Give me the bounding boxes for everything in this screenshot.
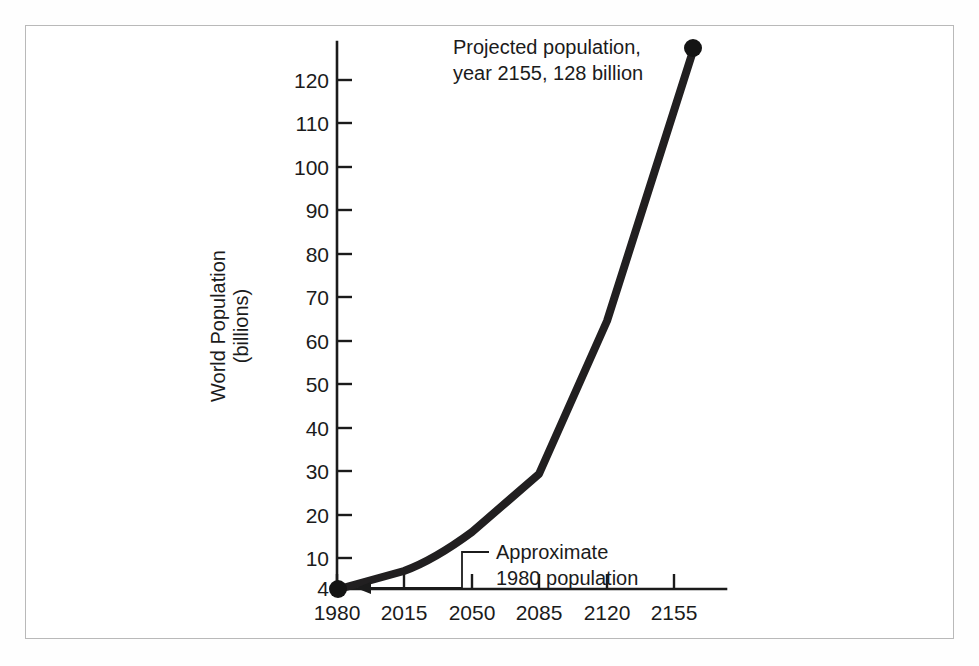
y-tick-label-10: 10 xyxy=(306,547,329,570)
y-tick-label-100: 100 xyxy=(294,156,329,179)
y-tick-label-4: 4 xyxy=(317,577,329,600)
data-series-world-population xyxy=(329,39,702,598)
data-point-1980 xyxy=(329,580,347,598)
data-point-2155 xyxy=(684,39,702,57)
x-tick-label-2050: 2050 xyxy=(449,601,496,624)
x-axis-tick-labels: 1980 2015 2050 2085 2120 2155 xyxy=(314,601,698,624)
y-tick-label-110: 110 xyxy=(296,112,329,135)
annotation-projected-line1: Projected population, xyxy=(453,36,641,58)
y-axis: 4 10 20 30 40 50 60 70 80 90 100 110 120… xyxy=(207,42,352,600)
y-axis-title-line2: (billions) xyxy=(230,289,252,363)
y-tick-label-20: 20 xyxy=(306,504,329,527)
y-tick-label-120: 120 xyxy=(294,69,329,92)
y-tick-label-80: 80 xyxy=(306,243,329,266)
y-tick-label-40: 40 xyxy=(306,417,329,440)
x-tick-label-2085: 2085 xyxy=(516,601,563,624)
annotation-projected-line2: year 2155, 128 billion xyxy=(453,62,643,84)
y-tick-label-50: 50 xyxy=(306,373,329,396)
y-tick-label-90: 90 xyxy=(306,199,329,222)
y-axis-title-line1: World Population xyxy=(207,250,229,402)
y-tick-label-60: 60 xyxy=(306,330,329,353)
y-tick-label-70: 70 xyxy=(306,286,329,309)
population-curve xyxy=(339,51,693,589)
x-tick-label-2155: 2155 xyxy=(651,601,698,624)
x-tick-label-2015: 2015 xyxy=(381,601,428,624)
annotation-1980-line1: Approximate xyxy=(496,541,608,563)
y-tick-label-30: 30 xyxy=(306,460,329,483)
y-axis-title: World Population (billions) xyxy=(207,250,252,402)
annotation-1980-line2: 1980 population xyxy=(496,567,638,589)
annotation-1980-leader-line xyxy=(359,552,489,588)
chart-frame: 4 10 20 30 40 50 60 70 80 90 100 110 120… xyxy=(25,25,954,639)
x-tick-label-2120: 2120 xyxy=(584,601,631,624)
y-axis-ticks xyxy=(337,80,352,558)
annotation-projected-population: Projected population, year 2155, 128 bil… xyxy=(453,36,643,84)
y-axis-tick-labels: 4 10 20 30 40 50 60 70 80 90 100 110 120 xyxy=(294,69,329,600)
population-line-chart: 4 10 20 30 40 50 60 70 80 90 100 110 120… xyxy=(26,26,953,638)
figure-canvas: 4 10 20 30 40 50 60 70 80 90 100 110 120… xyxy=(0,0,979,666)
annotation-approximate-1980: Approximate 1980 population xyxy=(356,541,638,594)
x-tick-label-1980: 1980 xyxy=(314,601,361,624)
